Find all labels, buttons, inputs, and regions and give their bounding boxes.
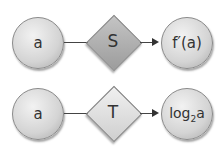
- input-node: a: [12, 88, 64, 140]
- output-label: log2a: [169, 105, 205, 124]
- output-node: f′(a): [161, 17, 213, 69]
- connector-line: [140, 113, 152, 114]
- input-label: a: [33, 105, 42, 123]
- input-label: a: [33, 34, 42, 52]
- output-label: f′(a): [172, 34, 202, 52]
- operator-label: S: [93, 31, 133, 51]
- output-node: log2a: [161, 88, 213, 140]
- arrow-head-icon: [152, 38, 159, 46]
- row-s: a S f′(a): [0, 0, 221, 74]
- row-t: a T log2a: [0, 74, 221, 148]
- input-node: a: [12, 17, 64, 69]
- connector-line: [140, 42, 152, 43]
- operator-label: T: [93, 102, 133, 122]
- arrow-head-icon: [152, 109, 159, 117]
